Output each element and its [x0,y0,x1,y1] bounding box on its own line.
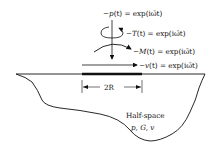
moment-load-label: −M(t) = exp(iω̄t) [133,47,195,56]
horizontal-load-label: −v(t) = exp(iω̄t) [139,61,198,70]
torsion-load-label: −T(t) = exp(iω̄t) [126,29,186,38]
vertical-load-label: −p(t) = exp(iω̄t) [103,9,162,18]
halfspace-params: p, G, v [131,123,154,132]
moment-icon [94,44,131,52]
footing-halfspace-diagram: −p(t) = exp(iω̄t) −T(t) = exp(iω̄t) −M(t… [0,0,219,145]
dimension-2r: 2R [82,80,142,93]
halfspace-label: Half-space [126,111,165,120]
dimension-label: 2R [104,83,115,92]
